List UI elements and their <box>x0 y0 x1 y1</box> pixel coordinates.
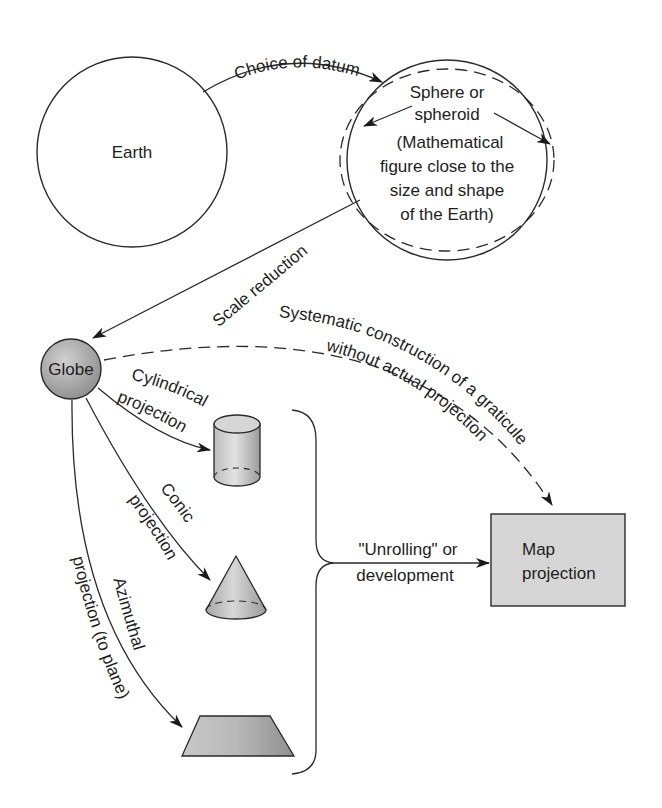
earth-label: Earth <box>112 143 153 162</box>
globe-node: Globe <box>41 339 101 399</box>
map-projection-label-line2: projection <box>522 564 596 583</box>
map-projection-diagram: Earth Sphere or spheroid (Mathematical f… <box>0 0 662 808</box>
sphere-label-line3: (Mathematical <box>397 133 504 152</box>
sphere-node: Sphere or spheroid (Mathematical figure … <box>340 60 554 260</box>
sphere-label-line1: Sphere or <box>410 83 485 102</box>
unrolling-label-line1: "Unrolling" or <box>359 540 458 559</box>
sphere-label-line2: spheroid <box>414 105 479 124</box>
conic-projection-arrow <box>86 398 210 580</box>
cylinder-shape-icon <box>214 415 260 486</box>
map-projection-node: Map projection <box>491 514 625 606</box>
cone-shape-icon <box>206 556 266 619</box>
azimuthal-label-line1: Azimuthal <box>109 575 148 652</box>
grouping-brace <box>292 410 334 774</box>
sphere-label-line6: of the Earth) <box>400 205 494 224</box>
earth-node: Earth <box>37 57 227 247</box>
map-projection-box <box>491 514 625 606</box>
conic-label-line1: Conic <box>157 479 199 526</box>
sphere-label-line5: size and shape <box>390 181 504 200</box>
map-projection-label-line1: Map <box>522 540 555 559</box>
globe-label: Globe <box>48 360 93 379</box>
sphere-label-line4: figure close to the <box>380 157 514 176</box>
unrolling-label-line2: development <box>356 566 454 585</box>
choice-of-datum-label: Choice of datum <box>232 52 362 83</box>
plane-shape-icon <box>182 716 294 756</box>
